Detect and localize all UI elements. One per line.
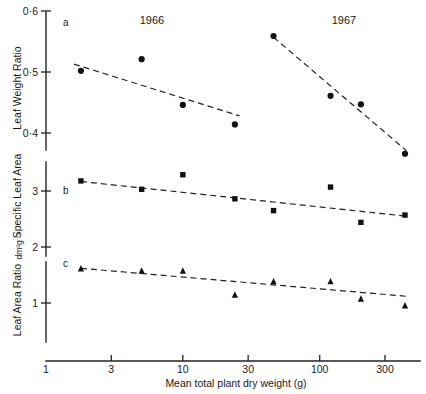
panel-letters-group: abc: [63, 17, 69, 269]
x-tick-label-1: 3: [108, 363, 114, 375]
data-point-a-1966-1: [139, 56, 145, 62]
x-axis-title: Mean total plant dry weight (g): [165, 377, 306, 389]
data-point-a-1967-0: [270, 33, 276, 39]
data-markers-group: [78, 33, 408, 309]
x-tick-label-3: 30: [242, 363, 254, 375]
data-point-a-1966-0: [78, 68, 84, 74]
data-point-c-all-7: [402, 302, 408, 308]
data-point-a-1966-2: [180, 102, 186, 108]
panel-letter-a: a: [63, 17, 69, 28]
trend-line-c-all: [81, 268, 406, 296]
data-point-a-1967-2: [358, 101, 364, 107]
y-axis-title-panel-c: Leaf Area Ratio: [11, 264, 23, 337]
x-tick-label-0: 1: [43, 363, 49, 375]
trend-line-b-all: [81, 181, 406, 216]
data-point-b-all-3: [232, 196, 237, 201]
tick-labels-group: 0·40·50·6231131030100300: [23, 5, 394, 375]
y-tick-label-b-0: 2: [32, 241, 38, 253]
y-tick-label-a-2: 0·6: [23, 5, 38, 17]
y-tick-label-b-1: 3: [32, 185, 38, 197]
data-point-c-all-5: [327, 278, 333, 284]
y-axis-title-panel-b: Specific Leaf Area: [11, 154, 23, 239]
data-point-c-all-2: [180, 267, 186, 273]
data-point-a-1967-3: [402, 151, 408, 157]
y-tick-label-a-1: 0·5: [23, 66, 38, 78]
chart-canvas: 0·40·50·6231131030100300 abc 1966 1967 L…: [0, 0, 426, 394]
x-tick-label-5: 300: [376, 363, 394, 375]
data-point-b-all-4: [271, 208, 276, 213]
trend-lines-group: [74, 37, 406, 296]
panel-letter-c: c: [63, 258, 68, 269]
trend-line-a-1967: [274, 37, 407, 150]
y-tick-label-c-0: 1: [32, 297, 38, 309]
group-label-1967: 1967: [332, 14, 356, 26]
data-point-b-all-7: [402, 212, 407, 217]
data-point-b-all-6: [358, 220, 363, 225]
data-point-b-all-5: [328, 184, 333, 189]
data-point-c-all-6: [358, 295, 364, 301]
y-axis-unit-panel-b: dm²g⁻¹: [14, 232, 24, 259]
group-label-1966: 1966: [140, 14, 164, 26]
figure-container: 0·40·50·6231131030100300 abc 1966 1967 L…: [0, 0, 426, 394]
panel-letter-b: b: [63, 185, 69, 196]
data-point-b-all-2: [180, 172, 185, 177]
axes-group: [41, 11, 420, 361]
trend-line-a-1966: [74, 64, 240, 116]
data-point-c-all-4: [270, 278, 276, 284]
data-point-b-all-1: [139, 187, 144, 192]
data-point-a-1967-1: [327, 93, 333, 99]
data-point-b-all-0: [78, 178, 83, 183]
data-point-c-all-1: [139, 267, 145, 273]
x-tick-label-4: 100: [311, 363, 329, 375]
data-point-c-all-3: [232, 291, 238, 297]
data-point-a-1966-3: [232, 121, 238, 127]
y-axis-title-panel-a: Leaf Weight Ratio: [11, 46, 23, 129]
x-tick-label-2: 10: [177, 363, 189, 375]
y-tick-label-a-0: 0·4: [23, 127, 38, 139]
